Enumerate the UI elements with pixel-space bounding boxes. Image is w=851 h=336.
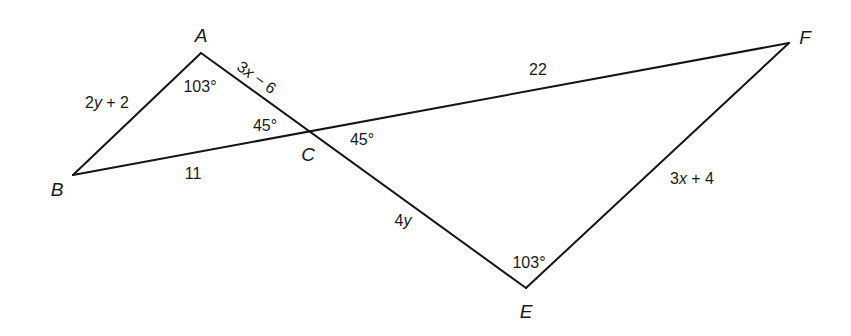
side-label-ac: 3x − 6 [234,57,280,97]
angle-label-e: 103° [512,254,545,271]
geometry-diagram: A B C E F 2y + 2 3x − 6 11 22 4y 3x + 4 … [0,0,851,336]
vertex-label-b: B [51,179,64,200]
side-label-bc: 11 [185,165,202,182]
side-label-ab: 2y + 2 [85,94,129,111]
vertex-label-f: F [799,27,812,48]
side-label-cf: 22 [529,61,547,78]
angle-label-ecf: 45° [350,131,374,148]
segment-bf [73,43,789,175]
segment-ef [526,43,789,288]
side-label-ef: 3x + 4 [670,170,714,187]
vertex-label-a: A [194,25,208,46]
vertex-label-e: E [520,301,533,322]
side-label-ce: 4y [395,212,413,229]
segment-ae [201,53,526,288]
vertex-label-c: C [301,144,315,165]
angle-label-a: 103° [183,78,216,95]
angle-label-acb: 45° [253,117,277,134]
segment-ab [73,53,201,175]
